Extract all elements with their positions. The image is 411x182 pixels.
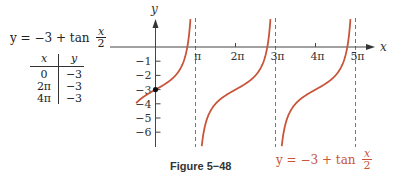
tangent-branch (282, 19, 351, 146)
y-axis-label: y (150, 2, 158, 16)
tangent-branch (202, 19, 271, 146)
axes: x y (110, 2, 387, 147)
fraction-denominator: 2 (362, 160, 373, 171)
x-tick-label: 2π (230, 50, 244, 63)
curve-label-fraction: x 2 (362, 148, 373, 171)
y-tick-label: −3 (135, 84, 151, 97)
y-tick-label: −6 (135, 126, 151, 139)
y-intercept-point (153, 87, 158, 92)
y-tick-label: −5 (135, 112, 151, 125)
tangent-curves (136, 19, 350, 146)
y-tick-label: −4 (135, 98, 151, 111)
curve-label: y = −3 + tan x 2 (276, 148, 373, 171)
y-axis-arrow-icon (153, 19, 159, 28)
x-tick-label: 4π (310, 50, 324, 63)
y-tick-label: −2 (135, 69, 151, 82)
x-tick-label: π (194, 50, 201, 63)
x-tick-label: 5π (350, 50, 364, 63)
figure-caption: Figure 5−48 (170, 160, 231, 172)
x-ticks: π2π3π4π5π (194, 43, 365, 63)
y-tick-label: −1 (135, 55, 151, 68)
x-tick-label: 3π (270, 50, 284, 63)
x-axis-label: x (380, 40, 387, 54)
y-ticks: −1−2−3−4−5−6 (135, 55, 160, 139)
asymptote-lines (196, 18, 356, 147)
curve-label-text: y = −3 + tan (276, 153, 356, 167)
x-axis-arrow-icon (366, 44, 375, 50)
